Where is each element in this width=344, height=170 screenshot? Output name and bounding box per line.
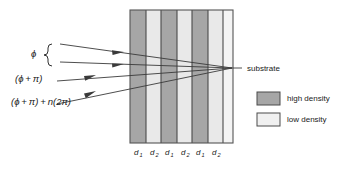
swatch-high-density-icon [257, 92, 280, 105]
thickness-base-5: d [212, 148, 217, 157]
thickness-sub-3: 2 [186, 152, 191, 158]
swatch-low-density-icon [257, 113, 280, 126]
label-phi: ϕ [31, 48, 36, 59]
layer-high-density-3 [192, 10, 208, 143]
legend-item-low-density: low density [257, 113, 327, 126]
thickness-label-0: d 1 [134, 148, 143, 158]
phi-brace [44, 44, 52, 66]
label-substrate: substrate [247, 64, 280, 73]
layer-substrate-body [223, 10, 233, 143]
thickness-sub-1: 2 [155, 152, 160, 158]
thickness-label-2: d 1 [165, 148, 174, 158]
label-phi-plus-pi: (ϕ + π) [15, 73, 42, 84]
thickness-base-4: d [196, 148, 201, 157]
thickness-base-2: d [165, 148, 170, 157]
thickness-sub-2: 1 [171, 152, 174, 158]
thickness-base-3: d [181, 148, 186, 157]
legend-label-high-density: high density [287, 94, 330, 103]
ray-2-arrowhead [112, 63, 124, 67]
thickness-sub-5: 2 [217, 152, 222, 158]
thickness-label-3: d 2 [181, 148, 191, 158]
layer-low-density-1 [146, 10, 161, 143]
figure-canvas: ϕ (ϕ + π) (ϕ + π) + n(2π) substrate d 1 … [0, 0, 344, 170]
thickness-label-1: d 2 [150, 148, 160, 158]
legend: high density low density [257, 92, 330, 126]
layer-high-density-1 [130, 10, 146, 143]
thickness-sub-4: 1 [202, 152, 205, 158]
thickness-sub-0: 1 [140, 152, 143, 158]
layer-high-density-2 [161, 10, 177, 143]
label-phi-plus-pi-plus-n2pi: (ϕ + π) + n(2π) [11, 96, 71, 107]
substrate-callout: substrate [232, 64, 280, 73]
legend-item-high-density: high density [257, 92, 330, 105]
thickness-label-4: d 1 [196, 148, 205, 158]
thickness-base-1: d [150, 148, 155, 157]
thickness-labels: d 1 d 2 d 1 d 2 d 1 d 2 [134, 148, 222, 158]
thickness-label-5: d 2 [212, 148, 222, 158]
legend-label-low-density: low density [287, 115, 327, 124]
multilayer-stack [130, 10, 233, 143]
layer-low-density-3 [208, 10, 223, 143]
thickness-base-0: d [134, 148, 139, 157]
